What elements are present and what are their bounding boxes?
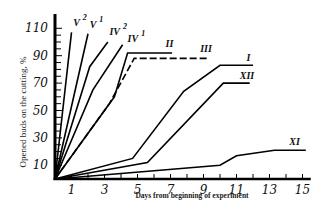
series-line-ii (55, 53, 172, 179)
series-line-v2 (55, 32, 72, 179)
series-label-iv1: IV1 (127, 29, 146, 44)
x-tick-label: 3 (101, 183, 109, 197)
y-tick-label: 90 (33, 49, 49, 63)
y-tick-label: 110 (25, 21, 48, 35)
x-axis-title: Days from beginning of experiment (135, 191, 249, 200)
y-tick-label: 10 (33, 158, 49, 172)
series-label-v1: V1 (90, 15, 104, 30)
series-label-ii: II (165, 38, 175, 49)
x-tick-label: 15 (295, 183, 310, 197)
series-label-iv2: IV2 (108, 22, 127, 37)
series-label-xi: XI (288, 136, 301, 147)
y-tick-label: 50 (33, 104, 49, 118)
y-tick-label: 70 (33, 76, 49, 90)
series-label-i: I (245, 52, 251, 63)
series-labels: V2V1IV2IV1IIIIIIXIIXI (73, 13, 301, 147)
y-tick-label: 30 (33, 131, 49, 145)
series-label-v2: V2 (73, 13, 87, 28)
y-axis-title: Opened buds on the cutting, % (18, 56, 28, 167)
series-lines (55, 32, 306, 179)
series-label-iii: III (199, 43, 213, 54)
line-chart: 103050709011013579111315 V2V1IV2IV1IIIII… (0, 0, 325, 220)
series-line-iv1 (55, 45, 123, 179)
series-line-xi (55, 150, 306, 179)
x-tick-label: 13 (262, 183, 278, 197)
x-tick-label: 1 (68, 183, 76, 197)
series-label-xii: XII (239, 70, 256, 81)
